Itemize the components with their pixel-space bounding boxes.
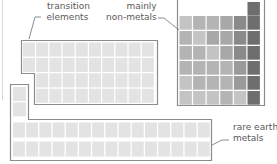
transition-element-cell bbox=[49, 58, 61, 72]
rare-earth-cell bbox=[145, 142, 157, 157]
non-metals-label-line1: mainly bbox=[106, 1, 157, 12]
transition-element-cell bbox=[129, 73, 141, 87]
transition-element-cell bbox=[115, 43, 127, 57]
transition-leader-line bbox=[29, 17, 41, 39]
rare-earth-cell bbox=[198, 123, 210, 138]
transition-element-cell bbox=[89, 73, 101, 87]
non-metal-cell bbox=[248, 16, 260, 30]
non-metals-label-line2: non-metals bbox=[106, 12, 157, 23]
rare-earth-cell bbox=[171, 142, 183, 157]
rare-earth-cell bbox=[171, 123, 183, 138]
non-metals-leader-line bbox=[158, 18, 179, 30]
transition-label-line2: elements bbox=[45, 12, 90, 23]
transition-element-cell bbox=[49, 89, 61, 103]
transition-element-cell bbox=[115, 89, 127, 103]
non-metal-cell bbox=[248, 61, 260, 75]
non-metal-cell bbox=[180, 61, 192, 75]
non-metal-cell bbox=[248, 76, 260, 90]
transition-element-cell bbox=[129, 58, 141, 72]
non-metal-cell bbox=[180, 46, 192, 60]
non-metal-cell bbox=[234, 31, 246, 45]
transition-element-cell bbox=[36, 43, 48, 57]
transition-element-cell bbox=[89, 43, 101, 57]
transition-element-cell bbox=[89, 58, 101, 72]
rare-earth-label: rare earth metals bbox=[233, 122, 277, 144]
rare-earth-cell bbox=[92, 142, 104, 157]
transition-element-cell bbox=[102, 58, 114, 72]
rare-earth-stub-cell bbox=[13, 102, 26, 116]
non-metal-cell bbox=[180, 91, 192, 105]
non-metal-cell bbox=[234, 91, 246, 105]
transition-element-cell bbox=[23, 58, 35, 72]
transition-element-cell bbox=[63, 43, 75, 57]
transition-element-cell bbox=[115, 73, 127, 87]
non-metal-cell bbox=[220, 16, 232, 30]
rare-earth-cell bbox=[105, 142, 117, 157]
transition-element-cell bbox=[129, 43, 141, 57]
rare-earth-cell bbox=[79, 123, 91, 138]
non-metal-cell bbox=[180, 16, 192, 30]
non-metal-cell bbox=[234, 76, 246, 90]
transition-element-cell bbox=[142, 89, 154, 103]
non-metal-cell bbox=[207, 31, 219, 45]
transition-element-cell bbox=[49, 43, 61, 57]
rare-earth-cell bbox=[185, 123, 197, 138]
transition-element-cell bbox=[102, 43, 114, 57]
transition-element-cell bbox=[89, 89, 101, 103]
rare-earth-cell bbox=[185, 142, 197, 157]
rare-earth-leader-line bbox=[212, 140, 229, 145]
rare-earth-cell bbox=[158, 142, 170, 157]
rare-earth-label-line1: rare earth bbox=[233, 122, 277, 133]
non-metal-cell bbox=[220, 91, 232, 105]
rare-earth-cell bbox=[132, 123, 144, 138]
non-metal-cell bbox=[248, 31, 260, 45]
non-metals-label: mainly non-metals bbox=[106, 1, 157, 23]
non-metal-cell bbox=[220, 76, 232, 90]
non-metal-cell bbox=[180, 76, 192, 90]
rare-earth-stub-cell bbox=[13, 87, 26, 101]
transition-element-cell bbox=[142, 43, 154, 57]
rare-earth-cell bbox=[132, 142, 144, 157]
non-metal-cell bbox=[193, 61, 205, 75]
rare-earth-cell bbox=[158, 123, 170, 138]
rare-earth-cell bbox=[119, 142, 131, 157]
rare-earth-cell bbox=[26, 123, 38, 138]
rare-earth-cell bbox=[79, 142, 91, 157]
transition-label: transition elements bbox=[45, 1, 90, 23]
non-metal-cell bbox=[180, 31, 192, 45]
rare-earth-label-line2: metals bbox=[233, 133, 277, 144]
transition-element-cell bbox=[76, 58, 88, 72]
non-metal-cell bbox=[193, 46, 205, 60]
rare-earth-cell bbox=[26, 142, 38, 157]
non-metal-cell bbox=[248, 2, 260, 16]
non-metal-cell bbox=[248, 46, 260, 60]
non-metal-cell bbox=[207, 16, 219, 30]
transition-element-cell bbox=[76, 43, 88, 57]
transition-element-cell bbox=[49, 73, 61, 87]
transition-element-cell bbox=[115, 58, 127, 72]
transition-element-cell bbox=[102, 73, 114, 87]
rare-earth-cell bbox=[53, 142, 65, 157]
transition-element-cell bbox=[63, 58, 75, 72]
rare-earth-cell bbox=[39, 123, 51, 138]
transition-element-cell bbox=[63, 73, 75, 87]
transition-element-cell bbox=[63, 89, 75, 103]
rare-earth-cell bbox=[66, 142, 78, 157]
rare-earth-cell bbox=[145, 123, 157, 138]
non-metal-cell bbox=[234, 46, 246, 60]
rare-earth-cell bbox=[119, 123, 131, 138]
rare-earth-cell bbox=[39, 142, 51, 157]
transition-element-cell bbox=[142, 58, 154, 72]
transition-element-cell bbox=[36, 89, 48, 103]
non-metal-cell bbox=[220, 31, 232, 45]
non-metal-cell bbox=[207, 61, 219, 75]
non-metal-cell bbox=[220, 61, 232, 75]
non-metal-cell bbox=[207, 46, 219, 60]
non-metal-cell bbox=[193, 76, 205, 90]
non-metal-cell bbox=[193, 31, 205, 45]
non-metal-cell bbox=[248, 91, 260, 105]
rare-earth-cell bbox=[198, 142, 210, 157]
transition-element-cell bbox=[36, 58, 48, 72]
transition-element-cell bbox=[129, 89, 141, 103]
transition-element-cell bbox=[36, 73, 48, 87]
